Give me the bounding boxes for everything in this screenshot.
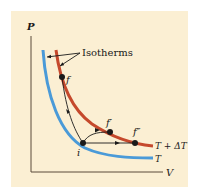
point-i-label: i bbox=[77, 147, 80, 158]
point-f-prime bbox=[107, 129, 113, 135]
process-paths bbox=[62, 77, 135, 145]
v-axis-label: V bbox=[166, 167, 175, 178]
point-f-label: f bbox=[65, 74, 72, 85]
isotherm-t-label: T bbox=[155, 154, 162, 164]
isotherms-callout bbox=[47, 53, 80, 66]
point-f bbox=[59, 74, 65, 80]
point-f-double-prime-label: f″ bbox=[132, 126, 141, 137]
point-i bbox=[80, 140, 86, 146]
point-f-prime-label: f′ bbox=[105, 117, 113, 128]
isotherms-label: Isotherms bbox=[82, 47, 133, 58]
p-axis-label: P bbox=[26, 21, 35, 32]
isotherm-t-plus-dt-label: T + ΔT bbox=[155, 141, 188, 151]
point-f-double-prime bbox=[132, 140, 138, 146]
pv-diagram: P V Isotherms f i f′ f″ T + ΔT T bbox=[0, 0, 199, 190]
